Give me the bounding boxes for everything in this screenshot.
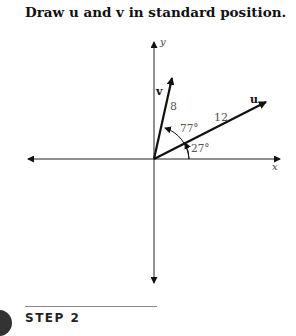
vector-v-magnitude: 8	[170, 100, 177, 113]
vector-u-magnitude: 12	[214, 111, 228, 124]
y-axis-label: y	[159, 36, 166, 47]
step-heading: STEP 2	[25, 311, 80, 325]
section-divider	[25, 306, 157, 307]
vector-v-label: v	[155, 85, 163, 98]
angle-u-label: 27°	[191, 142, 210, 154]
angle-v-label: 77°	[180, 122, 199, 134]
vector-u-label: u	[250, 93, 258, 106]
x-axis-label: x	[272, 161, 278, 172]
